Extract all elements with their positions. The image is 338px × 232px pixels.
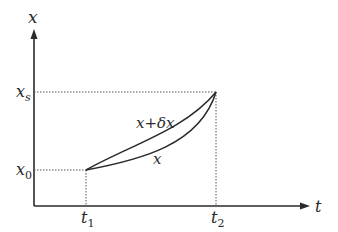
y-axis-arrow-icon: [31, 29, 38, 39]
x-axis-arrow-icon: [300, 203, 310, 210]
curve-nominal-label: x: [153, 150, 162, 168]
trajectory-diagram: x t xs x0 t1 t2 x+δx x: [0, 0, 338, 232]
t1-label: t1: [81, 208, 94, 230]
xs-label: xs: [16, 82, 31, 104]
x0-label: x0: [16, 160, 32, 182]
y-axis-label: x: [28, 7, 38, 27]
t2-label: t2: [211, 208, 224, 230]
x-axis-label: t: [315, 197, 322, 216]
curve-perturbed-label: x+δx: [136, 114, 175, 132]
